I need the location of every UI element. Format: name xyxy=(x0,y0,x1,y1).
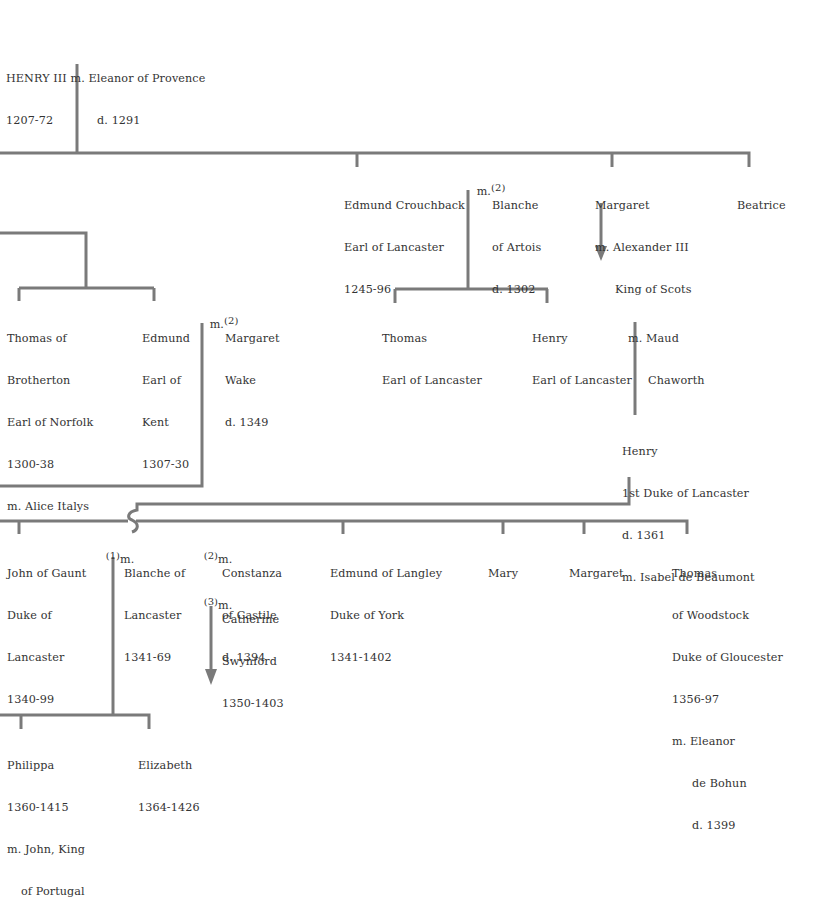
thomas-brotherton-line-3: Earl of Norfolk xyxy=(7,416,93,430)
edmund-kent-line-2: Earl of xyxy=(142,374,190,388)
margaret-wake-line-2: Wake xyxy=(225,374,280,388)
catherine-line-1: Catherine xyxy=(222,613,284,627)
person-maud-chaworth: m. Maud Chaworth xyxy=(628,304,705,416)
john-gaunt-line-3: Lancaster xyxy=(7,651,86,665)
marriage-number: (2) xyxy=(204,550,218,561)
henry-iii-line-1: HENRY III m. Eleanor of Provence xyxy=(6,72,205,86)
mary-name: Mary xyxy=(488,567,518,581)
person-philippa: Philippa 1360-1415 m. John, King of Port… xyxy=(7,731,85,901)
person-elizabeth: Elizabeth 1364-1426 xyxy=(138,731,200,843)
edmund-crouchback-title: Earl of Lancaster xyxy=(344,241,465,255)
person-blanche-artois: Blanche of Artois d. 1302 xyxy=(492,171,541,325)
thomas-woodstock-line-3: Duke of Gloucester xyxy=(672,651,783,665)
henry-lancaster-line-2: Earl of Lancaster xyxy=(532,374,632,388)
blanche-lancaster-line-1: Blanche of xyxy=(124,567,185,581)
edmund-crouchback-dates: 1245-96 xyxy=(344,283,465,297)
margaret-name: Margaret xyxy=(569,567,624,581)
margaret-wake-line-1: Margaret xyxy=(225,332,280,346)
edmund-langley-line-3: 1341-1402 xyxy=(330,651,442,665)
thomas-woodstock-line-5: m. Eleanor xyxy=(672,735,783,749)
marriage-number: (3) xyxy=(204,596,218,607)
blanche-lancaster-line-3: 1341-69 xyxy=(124,651,185,665)
henry-lancaster-line-1: Henry xyxy=(532,332,632,346)
edmund-crouchback-name: Edmund Crouchback xyxy=(344,199,465,213)
philippa-line-4: of Portugal xyxy=(7,885,85,899)
person-thomas-lancaster: Thomas Earl of Lancaster xyxy=(382,304,482,416)
catherine-line-3: 1350-1403 xyxy=(222,697,284,711)
elizabeth-line-1: Elizabeth xyxy=(138,759,200,773)
john-gaunt-line-1: John of Gaunt xyxy=(7,567,86,581)
person-blanche-lancaster: Blanche of Lancaster 1341-69 xyxy=(124,539,185,693)
margaret-scots-line-1: Margaret xyxy=(595,199,692,213)
person-margaret-scots: Margaret m. Alexander III King of Scots xyxy=(595,171,692,325)
beatrice-name: Beatrice xyxy=(737,199,786,213)
edmund-langley-line-2: Duke of York xyxy=(330,609,442,623)
catherine-line-2: Swynford xyxy=(222,655,284,669)
thomas-brotherton-line-4: 1300-38 xyxy=(7,458,93,472)
henry-duke-line-1: Henry xyxy=(622,445,755,459)
thomas-brotherton-line-2: Brotherton xyxy=(7,374,93,388)
blanche-artois-line-2: of Artois xyxy=(492,241,541,255)
blanche-artois-line-3: d. 1302 xyxy=(492,283,541,297)
margaret-wake-line-3: d. 1349 xyxy=(225,416,280,430)
maud-chaworth-line-1: m. Maud xyxy=(628,332,705,346)
swynford-arrow-icon xyxy=(205,669,217,685)
duke-henry-descent-line xyxy=(129,477,629,532)
margaret-scots-line-3: King of Scots xyxy=(595,283,692,297)
maud-chaworth-line-2: Chaworth xyxy=(628,374,705,388)
person-mary: Mary xyxy=(488,539,518,609)
thomas-woodstock-line-6: de Bohun xyxy=(672,777,783,791)
constanza-line-1: Constanza xyxy=(222,567,282,581)
person-margaret: Margaret xyxy=(569,539,624,609)
person-thomas-woodstock: Thomas of Woodstock Duke of Gloucester 1… xyxy=(672,539,783,861)
person-henry-lancaster: Henry Earl of Lancaster xyxy=(532,304,632,416)
elizabeth-line-2: 1364-1426 xyxy=(138,801,200,815)
thomas-woodstock-line-7: d. 1399 xyxy=(672,819,783,833)
blanche-artois-line-1: Blanche xyxy=(492,199,541,213)
henry-duke-line-2: 1st Duke of Lancaster xyxy=(622,487,755,501)
thomas-brotherton-line-1: Thomas of xyxy=(7,332,93,346)
thomas-woodstock-line-1: Thomas xyxy=(672,567,783,581)
philippa-line-1: Philippa xyxy=(7,759,85,773)
thomas-brotherton-line-5: m. Alice Italys xyxy=(7,500,93,514)
person-henry-iii: HENRY III m. Eleanor of Provence 1207-72… xyxy=(6,44,205,156)
person-edmund-kent: Edmund Earl of Kent 1307-30 xyxy=(142,304,190,500)
thomas-lancaster-line-1: Thomas xyxy=(382,332,482,346)
philippa-line-3: m. John, King xyxy=(7,843,85,857)
edward1-branch-line xyxy=(0,233,86,288)
marriage-prefix: m. xyxy=(477,185,491,198)
john-gaunt-line-2: Duke of xyxy=(7,609,86,623)
edmund-kent-line-3: Kent xyxy=(142,416,190,430)
edmund-kent-line-1: Edmund xyxy=(142,332,190,346)
john-gaunt-line-4: 1340-99 xyxy=(7,693,86,707)
edmund-langley-line-1: Edmund of Langley xyxy=(330,567,442,581)
thomas-woodstock-line-4: 1356-97 xyxy=(672,693,783,707)
margaret-scots-line-2: m. Alexander III xyxy=(595,241,692,255)
marriage-prefix: m. xyxy=(210,318,224,331)
thomas-woodstock-line-2: of Woodstock xyxy=(672,609,783,623)
thomas-lancaster-line-2: Earl of Lancaster xyxy=(382,374,482,388)
blanche-lancaster-line-2: Lancaster xyxy=(124,609,185,623)
person-beatrice: Beatrice xyxy=(737,171,786,241)
philippa-line-2: 1360-1415 xyxy=(7,801,85,815)
edmund-kent-line-4: 1307-30 xyxy=(142,458,190,472)
henry-iii-line-2: 1207-72 d. 1291 xyxy=(6,114,205,128)
person-thomas-brotherton: Thomas of Brotherton Earl of Norfolk 130… xyxy=(7,304,93,542)
marriage-number: (1) xyxy=(106,550,120,561)
person-catherine-swynford: Catherine Swynford 1350-1403 xyxy=(222,585,284,739)
person-margaret-wake: Margaret Wake d. 1349 xyxy=(225,304,280,458)
person-edmund-crouchback: Edmund Crouchback Earl of Lancaster 1245… xyxy=(344,171,465,325)
person-john-of-gaunt: John of Gaunt Duke of Lancaster 1340-99 xyxy=(7,539,86,735)
person-edmund-langley: Edmund of Langley Duke of York 1341-1402 xyxy=(330,539,442,693)
